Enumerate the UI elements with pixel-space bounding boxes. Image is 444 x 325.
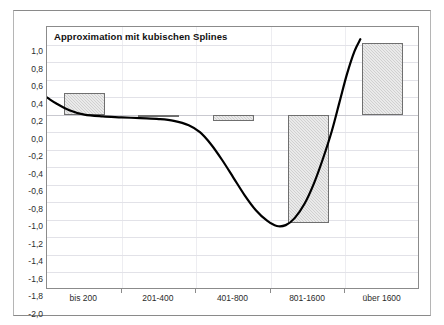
x-tick-mark — [344, 289, 345, 293]
y-tick-label: -0,6 — [3, 187, 43, 196]
y-tick-label: -1,8 — [3, 292, 43, 301]
x-axis: bis 200201-400401-800801-1600über 1600 — [46, 293, 419, 307]
y-axis: 1,00,80,60,40,20,0-0,2-0,4-0,6-0,8-1,0-1… — [0, 26, 43, 289]
y-tick-label: -2,0 — [3, 310, 43, 319]
y-tick-label: -1,6 — [3, 275, 43, 284]
y-tick-label: 1,0 — [3, 47, 43, 56]
x-tick-label: über 1600 — [344, 293, 419, 303]
x-tick-label: bis 200 — [46, 293, 121, 303]
y-tick-label: -1,4 — [3, 257, 43, 266]
y-tick-label: 0,4 — [3, 100, 43, 109]
y-tick-label: -1,0 — [3, 222, 43, 231]
spline-approximation-chart: 1,00,80,60,40,20,0-0,2-0,4-0,6-0,8-1,0-1… — [0, 0, 444, 325]
y-tick-label: -0,8 — [3, 205, 43, 214]
x-tick-label: 401-800 — [195, 293, 270, 303]
x-tick-mark — [121, 289, 122, 293]
x-tick-mark — [270, 289, 271, 293]
y-tick-label: -0,4 — [3, 170, 43, 179]
y-tick-label: 0,8 — [3, 65, 43, 74]
y-tick-label: -0,2 — [3, 152, 43, 161]
x-tick-label: 801-1600 — [270, 293, 345, 303]
chart-title: Approximation mit kubischen Splines — [54, 31, 227, 42]
x-tick-mark — [195, 289, 196, 293]
y-tick-label: 0,0 — [3, 135, 43, 144]
y-tick-label: 0,2 — [3, 117, 43, 126]
y-tick-label: -1,2 — [3, 240, 43, 249]
y-tick-label: 0,6 — [3, 82, 43, 91]
spline-curve — [47, 27, 419, 289]
plot-area — [46, 26, 419, 289]
x-tick-label: 201-400 — [121, 293, 196, 303]
